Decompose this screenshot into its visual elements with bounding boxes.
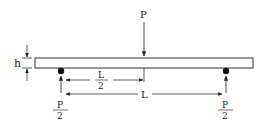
thickness-label: h — [14, 57, 21, 70]
left-reaction-denominator: 2 — [57, 111, 63, 121]
thickness-dimension: h — [14, 45, 32, 81]
right-reaction-numerator: P — [222, 100, 228, 110]
half-span-denominator: 2 — [98, 81, 104, 91]
left-support-pin-icon — [58, 68, 64, 74]
left-support: P 2 — [53, 68, 68, 121]
half-span-numerator: L — [98, 70, 104, 80]
span-dimension: L — [66, 89, 222, 100]
span-label: L — [141, 89, 148, 100]
right-reaction-denominator: 2 — [222, 111, 228, 121]
left-reaction-numerator: P — [57, 100, 63, 110]
three-point-bending-diagram: h P P 2 P 2 L 2 L — [0, 0, 268, 128]
right-support-pin-icon — [223, 68, 229, 74]
beam — [35, 58, 253, 68]
load-arrow: P — [140, 9, 147, 56]
load-label: P — [140, 9, 147, 20]
half-span-dimension: L 2 — [66, 70, 143, 91]
